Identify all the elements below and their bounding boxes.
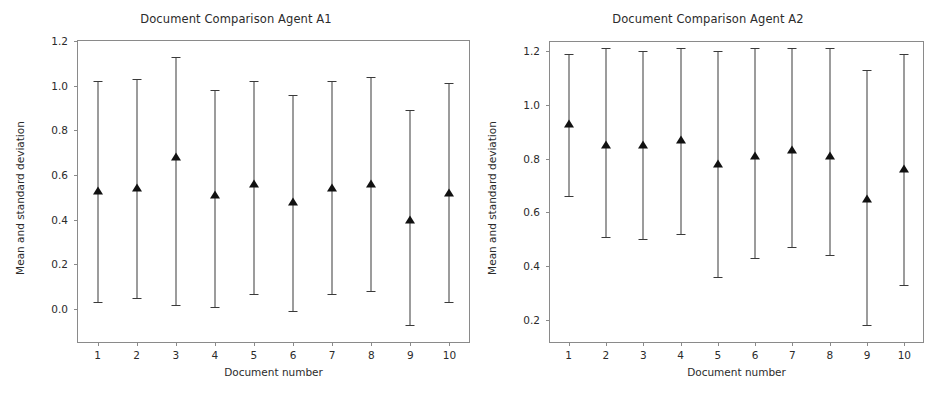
error-bar-cap-bottom [900,285,909,286]
x-tick-4 [681,342,682,346]
y-axis-label-a1: Mean and standard deviation [14,68,26,328]
y-tick-label: 0.8 [523,153,540,165]
error-bar-cap-bottom [751,258,760,259]
data-point-marker [171,153,181,161]
error-bar-cap-top [289,95,298,96]
error-bar-cap-bottom [406,325,415,326]
x-tick-2 [137,342,138,346]
error-bar [175,57,176,305]
error-bar-cap-bottom [249,294,258,295]
data-point-marker [132,184,142,192]
error-bar-cap-top [788,48,797,49]
error-bar-cap-top [825,48,834,49]
data-point-marker [862,194,872,202]
y-axis-label-a2: Mean and standard deviation [486,68,498,328]
error-bar-cap-bottom [863,325,872,326]
x-axis-label-a2: Document number [550,366,923,378]
error-bar-cap-bottom [713,277,722,278]
data-point-marker [787,146,797,154]
data-point-marker [825,151,835,159]
y-tick-0.2: 0.2 [74,264,78,265]
error-bar-cap-bottom [564,196,573,197]
x-tick-label: 7 [329,349,336,361]
error-bar-cap-bottom [601,237,610,238]
y-tick-label: 1.0 [51,80,68,92]
x-tick-10 [449,342,450,346]
y-tick-0.2: 0.2 [546,320,550,321]
x-tick-label: 7 [789,349,796,361]
x-tick-label: 5 [715,349,722,361]
x-tick-label: 9 [407,349,414,361]
error-bar-cap-bottom [676,234,685,235]
y-tick-0.8: 0.8 [74,130,78,131]
plot-area-a2: Mean and standard deviation Document num… [549,41,924,343]
y-tick-label: 1.0 [523,99,540,111]
x-tick-5 [718,342,719,346]
x-tick-label: 8 [826,349,833,361]
data-point-marker [676,135,686,143]
y-tick-label: 1.2 [51,35,68,47]
error-bar-cap-top [751,48,760,49]
x-tick-2 [606,342,607,346]
x-tick-label: 10 [443,349,456,361]
x-tick-6 [293,342,294,346]
x-tick-5 [254,342,255,346]
x-tick-label: 3 [640,349,647,361]
y-tick-label: 0.0 [51,303,68,315]
data-point-marker [601,141,611,149]
x-tick-label: 6 [752,349,759,361]
x-tick-3 [176,342,177,346]
x-tick-1 [569,342,570,346]
data-point-marker [366,180,376,188]
y-tick-label: 0.6 [523,206,540,218]
error-bar-cap-bottom [445,302,454,303]
x-tick-label: 6 [290,349,297,361]
x-tick-1 [98,342,99,346]
y-tick-0.0: 0.0 [74,309,78,310]
x-tick-label: 10 [898,349,911,361]
error-bar-cap-top [676,48,685,49]
figure-document-comparison: Document Comparison Agent A1 Mean and st… [0,0,944,393]
error-bar-cap-top [367,77,376,78]
error-bar-cap-top [601,48,610,49]
x-tick-label: 5 [251,349,258,361]
data-point-marker [564,119,574,127]
error-bar-cap-top [406,110,415,111]
error-bar-cap-bottom [328,294,337,295]
y-tick-0.8: 0.8 [546,159,550,160]
x-tick-label: 1 [94,349,101,361]
error-bar-cap-bottom [289,311,298,312]
error-bar-cap-top [639,51,648,52]
error-bar-cap-top [328,81,337,82]
x-tick-7 [332,342,333,346]
data-point-marker [405,215,415,223]
plot-area-a1: Mean and standard deviation Document num… [77,40,470,343]
y-tick-label: 0.4 [523,260,540,272]
x-tick-6 [755,342,756,346]
error-bar-cap-top [249,81,258,82]
x-tick-label: 4 [212,349,219,361]
error-bar-cap-bottom [171,305,180,306]
y-tick-label: 0.6 [51,169,68,181]
data-point-marker [327,184,337,192]
error-bar-cap-top [445,83,454,84]
error-bar-cap-bottom [367,291,376,292]
error-bar-cap-bottom [639,239,648,240]
y-tick-0.6: 0.6 [546,212,550,213]
x-tick-label: 4 [677,349,684,361]
data-point-marker [210,191,220,199]
error-bar-cap-top [900,54,909,55]
data-point-marker [638,141,648,149]
y-tick-1.0: 1.0 [546,105,550,106]
error-bar-cap-bottom [788,247,797,248]
x-tick-label: 2 [603,349,610,361]
x-tick-3 [643,342,644,346]
y-tick-label: 0.2 [51,258,68,270]
error-bar-cap-top [713,51,722,52]
x-tick-4 [215,342,216,346]
data-point-marker [444,189,454,197]
error-bar-cap-bottom [210,307,219,308]
error-bar-cap-top [132,79,141,80]
x-axis-label-a1: Document number [78,366,469,378]
x-tick-9 [410,342,411,346]
